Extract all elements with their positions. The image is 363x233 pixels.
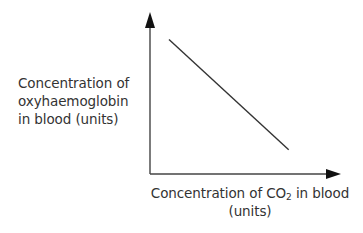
x-axis-label-line1: Concentration of CO2 in blood xyxy=(140,184,360,202)
y-axis-label: Concentration of oxyhaemoglobin in blood… xyxy=(18,74,143,128)
x-axis-arrow-icon xyxy=(326,169,341,179)
x-axis-label: Concentration of CO2 in blood (units) xyxy=(140,184,360,220)
data-line xyxy=(169,40,289,150)
x-axis-label-line2: (units) xyxy=(140,202,360,220)
x-axis-label-prefix: Concentration of CO xyxy=(151,185,286,201)
y-axis-arrow-icon xyxy=(145,12,155,28)
y-axis-label-line2: oxyhaemoglobin xyxy=(18,92,143,110)
y-axis-label-line3: in blood (units) xyxy=(18,110,143,128)
y-axis-label-line1: Concentration of xyxy=(18,74,143,92)
x-axis-label-suffix: in blood xyxy=(292,185,349,201)
